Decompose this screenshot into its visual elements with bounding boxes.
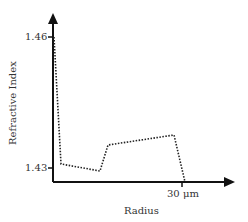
x-axis-arrow-icon — [224, 177, 235, 187]
y-axis-title: Refractive Index — [7, 61, 18, 145]
profile-line — [54, 37, 185, 182]
refractive-index-chart: 1.46 1.43 30 μm Radius Refractive Index — [0, 0, 248, 222]
y-axis-arrow-icon — [48, 13, 58, 24]
x-tick-label: 30 μm — [167, 188, 199, 199]
y-tick-label-bottom: 1.43 — [25, 162, 47, 173]
x-axis-title: Radius — [124, 205, 159, 216]
y-tick-label-top: 1.46 — [25, 31, 47, 42]
